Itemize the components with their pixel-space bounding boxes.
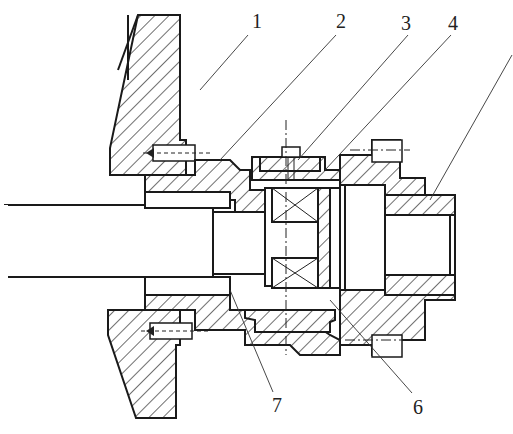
- leader-5: [430, 55, 512, 200]
- output-sleeve: [385, 195, 455, 295]
- spacer-top: [145, 192, 230, 208]
- callout-3: 3: [401, 12, 411, 34]
- gear-ring-top: [252, 147, 340, 180]
- bearing: [265, 188, 325, 288]
- callout-7: 7: [272, 394, 282, 416]
- spacer-bottom: [145, 277, 230, 295]
- callout-6: 6: [413, 396, 423, 418]
- shaft: [0, 205, 213, 279]
- callout-1: 1: [252, 10, 262, 32]
- gear-ring-bottom: [245, 310, 335, 332]
- retainer: [330, 188, 340, 288]
- shaft-neck: [213, 212, 265, 274]
- leader-1: [200, 35, 248, 90]
- bearing-cage: [318, 188, 330, 288]
- coupling-bore: [340, 185, 385, 290]
- callout-4: 4: [448, 12, 458, 34]
- housing-bolt-top: [143, 145, 212, 161]
- callout-2: 2: [336, 10, 346, 32]
- leader-2: [220, 35, 336, 160]
- cross-section-drawing: 1 2 3 4 7 6: [0, 0, 513, 434]
